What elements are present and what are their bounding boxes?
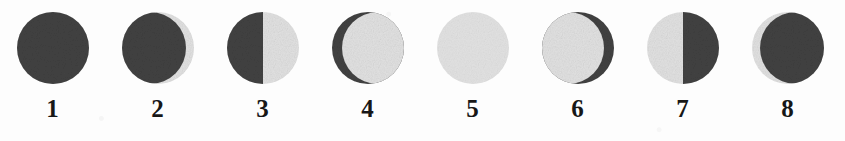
moon-disc-6 [540, 10, 616, 86]
phase-cell-5: 5 [420, 0, 525, 141]
moon-disc-5 [435, 10, 511, 86]
moon-disc-4 [330, 10, 406, 86]
phase-cell-1: 1 [0, 0, 105, 141]
phase-label-3: 3 [210, 92, 315, 126]
moon-disc-2 [120, 10, 196, 86]
phase-label-2: 2 [105, 92, 210, 126]
phase-cell-3: 3 [210, 0, 315, 141]
moon-phase-diagram: 1 [0, 0, 845, 141]
moon-disc-3 [225, 10, 301, 86]
phase-label-8: 8 [735, 92, 840, 126]
phase-cell-7: 7 [630, 0, 735, 141]
moon-disc-8 [750, 10, 826, 86]
moon-disc-7 [645, 10, 721, 86]
moon-disc-1 [15, 10, 91, 86]
phase-cell-4: 4 [315, 0, 420, 141]
phase-label-5: 5 [420, 92, 525, 126]
phase-label-7: 7 [630, 92, 735, 126]
phase-cell-8: 8 [735, 0, 840, 141]
phase-label-6: 6 [525, 92, 630, 126]
phase-cell-2: 2 [105, 0, 210, 141]
phase-label-4: 4 [315, 92, 420, 126]
phase-cell-6: 6 [525, 0, 630, 141]
phase-label-1: 1 [0, 92, 105, 126]
